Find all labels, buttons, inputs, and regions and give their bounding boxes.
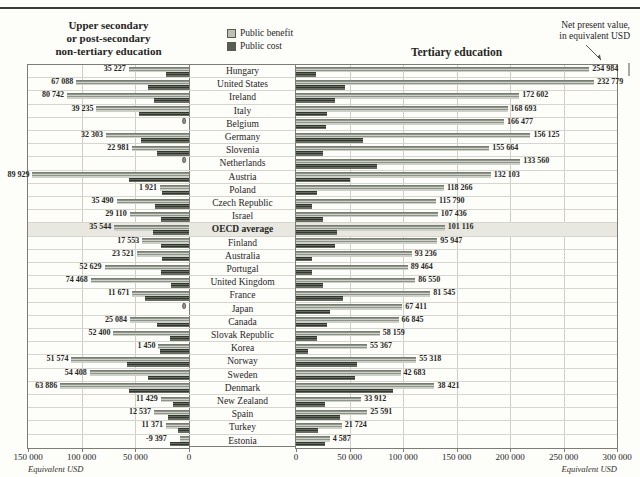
country-label: United States bbox=[189, 78, 296, 91]
public-cost-bar bbox=[155, 204, 189, 209]
right-row-Australia: 93 236 bbox=[296, 250, 617, 263]
axis-tick-label: 200 000 bbox=[495, 452, 524, 462]
public-cost-bar bbox=[168, 415, 189, 420]
public-cost-bar bbox=[296, 112, 327, 117]
country-row: Korea bbox=[189, 342, 296, 355]
public-cost-bar bbox=[296, 204, 312, 209]
public-cost-bar bbox=[296, 442, 325, 447]
public-cost-bar bbox=[141, 138, 189, 143]
net-value-label: 232 779 bbox=[597, 78, 623, 87]
left-row-Italy: 39 235 bbox=[28, 105, 189, 118]
axis-tick-label: 100 000 bbox=[67, 452, 96, 462]
country-label: Czech Republic bbox=[189, 197, 296, 210]
country-label: Estonia bbox=[189, 435, 296, 448]
legend-label: Public cost bbox=[240, 40, 282, 53]
public-benefit-bar bbox=[296, 146, 489, 152]
country-label: Sweden bbox=[189, 369, 296, 382]
top-rule bbox=[0, 7, 640, 9]
left-row-Austria: 89 929 bbox=[28, 171, 189, 184]
right-row-Canada: 66 845 bbox=[296, 316, 617, 329]
right-row-Belgium: 166 477 bbox=[296, 118, 617, 131]
country-row: Portugal bbox=[189, 263, 296, 276]
axis-tick-label: 50 000 bbox=[123, 452, 148, 462]
net-value-label: 4 587 bbox=[333, 435, 351, 444]
left-row-Japan: 0 bbox=[28, 303, 189, 316]
public-cost-bar bbox=[296, 217, 323, 222]
public-cost-bar bbox=[296, 151, 323, 156]
net-value-label: 52 400 bbox=[88, 329, 110, 338]
country-row: Ireland bbox=[189, 91, 296, 104]
right-row-Turkey: 21 724 bbox=[296, 421, 617, 434]
public-cost-bar bbox=[296, 257, 312, 262]
net-value-label: 25 084 bbox=[105, 316, 127, 325]
country-label: United Kingdom bbox=[189, 276, 296, 289]
public-cost-bar bbox=[162, 257, 189, 262]
left-axis-unit: Equivalent USD bbox=[28, 464, 83, 474]
public-cost-bar bbox=[296, 349, 308, 354]
left-row-OECD average: 35 544 bbox=[28, 223, 189, 236]
right-row-Estonia: 4 587 bbox=[296, 435, 617, 448]
public-cost-bar bbox=[296, 125, 326, 130]
left-row-Denmark: 63 886 bbox=[28, 382, 189, 395]
net-value-label: 22 981 bbox=[107, 144, 129, 153]
right-row-Netherlands: 133 560 bbox=[296, 157, 617, 170]
public-cost-bar bbox=[296, 428, 318, 433]
right-row-Austria: 132 103 bbox=[296, 171, 617, 184]
public-cost-bar bbox=[296, 336, 317, 341]
right-row-Finland: 95 947 bbox=[296, 237, 617, 250]
net-value-label: 39 235 bbox=[71, 105, 93, 114]
net-value-label: 52 629 bbox=[80, 263, 102, 272]
net-value-label: 35 490 bbox=[92, 197, 114, 206]
country-row: Estonia bbox=[189, 435, 296, 448]
right-row-Norway: 55 318 bbox=[296, 355, 617, 368]
public-cost-bar bbox=[296, 362, 357, 367]
education-cost-benefit-chart: Upper secondary or post-secondary non-te… bbox=[0, 0, 640, 477]
country-label: Turkey bbox=[189, 421, 296, 434]
net-value-label: 42 683 bbox=[404, 369, 426, 378]
public-cost-bar bbox=[148, 376, 189, 381]
country-label: Germany bbox=[189, 131, 296, 144]
country-label: Norway bbox=[189, 355, 296, 368]
net-value-label: 66 845 bbox=[402, 316, 424, 325]
country-label: Slovak Republic bbox=[189, 329, 296, 342]
public-cost-bar bbox=[296, 230, 337, 235]
country-row: Netherlands bbox=[189, 157, 296, 170]
public-cost-bar bbox=[296, 178, 350, 183]
public-cost-bar bbox=[160, 349, 189, 354]
net-value-label: 35 544 bbox=[89, 223, 111, 232]
net-value-label: 155 664 bbox=[492, 144, 518, 153]
net-value-label: 51 574 bbox=[46, 355, 68, 364]
left-panel-title-line: non-tertiary education bbox=[28, 45, 189, 58]
country-row: Hungary bbox=[189, 65, 296, 78]
country-label: Japan bbox=[189, 303, 296, 316]
country-column: HungaryUnited StatesIrelandItalyBelgiumG… bbox=[189, 64, 296, 447]
net-value-label: 156 125 bbox=[533, 131, 559, 140]
right-row-Italy: 168 693 bbox=[296, 105, 617, 118]
public-cost-bar bbox=[296, 244, 335, 249]
left-row-Spain: 12 537 bbox=[28, 408, 189, 421]
public-cost-bar bbox=[148, 85, 189, 90]
public-benefit-bar bbox=[296, 185, 444, 191]
axis-tick-label: 50 000 bbox=[337, 452, 362, 462]
net-value-label: 95 947 bbox=[440, 237, 462, 246]
country-label: Israel bbox=[189, 210, 296, 223]
net-value-label: 0 bbox=[182, 157, 186, 166]
net-value-label: 172 602 bbox=[522, 91, 548, 100]
country-row: Austria bbox=[189, 171, 296, 184]
net-value-label: 254 984 bbox=[592, 65, 618, 74]
net-value-label: 93 236 bbox=[415, 250, 437, 259]
net-value-label: 74 468 bbox=[66, 276, 88, 285]
public-cost-bar bbox=[154, 98, 189, 103]
public-cost-bar bbox=[296, 389, 393, 394]
public-cost-bar bbox=[157, 151, 189, 156]
country-row: Japan bbox=[189, 303, 296, 316]
country-label: Portugal bbox=[189, 263, 296, 276]
net-value-label: 101 116 bbox=[448, 223, 474, 232]
net-value-label: 132 103 bbox=[494, 171, 520, 180]
net-value-label: 89 929 bbox=[7, 171, 29, 180]
public-cost-bar bbox=[173, 402, 189, 407]
country-row: Poland bbox=[189, 184, 296, 197]
country-label: France bbox=[189, 289, 296, 302]
country-label: Belgium bbox=[189, 118, 296, 131]
axis-tick-label: 100 000 bbox=[388, 452, 417, 462]
